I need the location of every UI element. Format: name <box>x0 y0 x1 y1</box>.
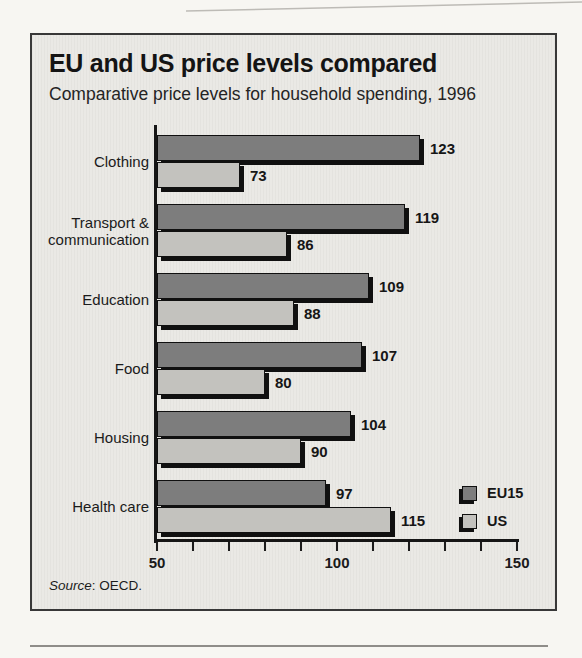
bar-eu15-food <box>157 342 362 368</box>
axis-tick <box>516 542 518 551</box>
category-label-food: Food <box>35 348 149 390</box>
axis-tick <box>264 542 266 551</box>
value-label-eu15-education: 109 <box>379 273 404 299</box>
category-label-transport-communication: Transport & communication <box>35 210 149 252</box>
chart-panel: EU and US price levels compared Comparat… <box>30 33 557 611</box>
bar-us-food <box>157 369 265 395</box>
bar-us-housing <box>157 438 301 464</box>
axis-tick <box>228 542 230 551</box>
axis-tick <box>300 542 302 551</box>
legend-label-us: US <box>487 513 507 529</box>
bar-eu15-transport-communication <box>157 204 405 230</box>
legend-item-eu15: EU15 <box>462 479 523 507</box>
legend: EU15US <box>462 479 523 535</box>
page: { "title": "EU and US price levels compa… <box>0 0 582 658</box>
axis-tick-label-100: 100 <box>315 554 359 571</box>
bar-eu15-housing <box>157 411 351 437</box>
category-label-housing: Housing <box>35 417 149 459</box>
value-label-eu15-health-care: 97 <box>336 480 353 506</box>
plot-area: EU15US Clothing12373Transport & communic… <box>157 125 517 539</box>
bar-us-transport-communication <box>157 231 287 257</box>
axis-tick <box>336 542 338 551</box>
legend-label-eu15: EU15 <box>487 485 523 501</box>
legend-swatch-us <box>462 514 477 529</box>
chart-subtitle: Comparative price levels for household s… <box>49 84 476 105</box>
value-label-eu15-housing: 104 <box>361 411 386 437</box>
value-label-us-transport-communication: 86 <box>297 231 314 257</box>
chart-title: EU and US price levels compared <box>49 49 437 78</box>
value-label-eu15-food: 107 <box>372 342 397 368</box>
legend-item-us: US <box>462 507 523 535</box>
axis-tick <box>156 542 158 551</box>
axis-tick <box>408 542 410 551</box>
page-separator-line <box>30 645 548 647</box>
axis-tick-label-150: 150 <box>495 554 539 571</box>
axis-tick <box>444 542 446 551</box>
value-label-eu15-clothing: 123 <box>430 135 455 161</box>
bar-us-education <box>157 300 294 326</box>
value-label-us-health-care: 115 <box>401 507 425 533</box>
axis-tick-label-50: 50 <box>135 554 179 571</box>
value-label-us-housing: 90 <box>311 438 328 464</box>
axis-tick <box>372 542 374 551</box>
bar-eu15-health-care <box>157 480 326 506</box>
axis-tick <box>480 542 482 551</box>
source-label: Source <box>49 578 92 593</box>
bar-eu15-clothing <box>157 135 420 161</box>
category-label-education: Education <box>35 279 149 321</box>
category-label-clothing: Clothing <box>35 141 149 183</box>
scan-artifact-line <box>0 0 582 14</box>
value-label-eu15-transport-communication: 119 <box>415 204 439 230</box>
bar-us-clothing <box>157 162 240 188</box>
bar-eu15-education <box>157 273 369 299</box>
value-label-us-clothing: 73 <box>250 162 267 188</box>
axis-tick <box>192 542 194 551</box>
source-value: : OECD. <box>92 578 142 593</box>
bar-us-health-care <box>157 507 391 533</box>
value-label-us-food: 80 <box>275 369 292 395</box>
value-label-us-education: 88 <box>304 300 321 326</box>
legend-swatch-eu15 <box>462 486 477 501</box>
category-label-health-care: Health care <box>35 486 149 528</box>
source-note: Source: OECD. <box>49 578 142 593</box>
